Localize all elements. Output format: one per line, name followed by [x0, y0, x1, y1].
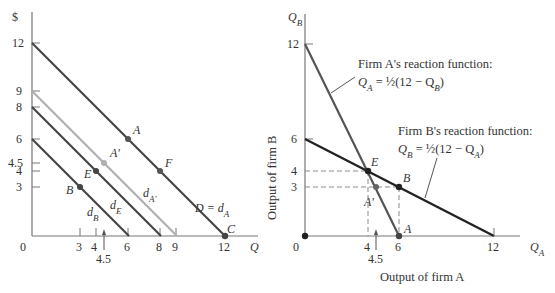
label-B-right: B: [403, 171, 411, 185]
label-E: E: [83, 167, 92, 181]
firm-A-reaction-line: [305, 44, 399, 236]
left-x-tick-8: 8: [156, 240, 162, 254]
point-origin: [302, 233, 308, 239]
label-E-right: E: [370, 155, 379, 169]
label-B: B: [66, 183, 74, 197]
point-A-prime-right: [373, 184, 379, 190]
label-dA-prime: dA': [143, 186, 157, 204]
label-dB: dB: [87, 205, 99, 223]
left-y-tick-6: 6: [16, 132, 22, 146]
right-x-axis-label: Output of firm A: [380, 270, 464, 284]
right-y-tick-4: 4: [291, 164, 297, 178]
point-F: [157, 168, 163, 174]
point-A: [125, 136, 131, 142]
left-x-tick-4-5: 4.5: [96, 252, 111, 266]
right-x-tick-6: 6: [395, 240, 401, 254]
label-A-prime-right: A': [363, 195, 374, 209]
label-A-right: A: [403, 222, 412, 236]
label-A-prime: A': [109, 146, 120, 160]
label-A: A: [132, 123, 141, 137]
firm-A-reaction-title: Firm A's reaction function:: [358, 57, 493, 71]
right-x-axis-symbol: QA: [530, 240, 545, 258]
left-x-tick-9: 9: [172, 240, 178, 254]
point-B: [77, 184, 83, 190]
right-y-tick-12: 12: [287, 37, 299, 51]
left-x-tick-6: 6: [124, 240, 130, 254]
right-origin: 0: [293, 240, 299, 254]
left-y-tick-4: 4: [16, 164, 22, 178]
arrow-head-icon: [374, 229, 378, 235]
left-chart: $ 12 9 8 6 4.5 4 3 0 3 4 4.5 6 8 9 12 Q: [8, 10, 259, 266]
right-x-tick-4-5: 4.5: [368, 252, 383, 266]
left-x-tick-12: 12: [218, 240, 230, 254]
right-x-tick-12-label: 12: [487, 240, 499, 254]
left-y-tick-12: 12: [12, 36, 24, 50]
firm-B-pointer: [425, 158, 437, 198]
firm-A-reaction-equation: QA = ½(12 − QB): [358, 75, 444, 93]
left-x-axis-label: Q: [250, 240, 259, 254]
arrow-head-icon: [102, 229, 106, 235]
left-x-tick-3: 3: [76, 240, 82, 254]
right-y-tick-3: 3: [291, 180, 297, 194]
right-y-axis-symbol: QB: [288, 10, 303, 28]
label-D-dA: D = dA: [194, 201, 230, 219]
left-y-tick-9: 9: [16, 84, 22, 98]
left-y-tick-8: 8: [16, 100, 22, 114]
left-y-tick-3: 3: [16, 180, 22, 194]
point-E: [93, 168, 99, 174]
firm-A-pointer: [331, 77, 355, 93]
right-y-tick-6: 6: [291, 132, 297, 146]
right-chart: QB 12 6 4 3 Output of firm B E B: [265, 10, 545, 284]
point-B-right: [396, 184, 402, 190]
diagram-canvas: $ 12 9 8 6 4.5 4 3 0 3 4 4.5 6 8 9 12 Q: [0, 0, 555, 293]
label-dE: dE: [110, 198, 122, 216]
point-A-right: [396, 233, 402, 239]
label-F: F: [164, 156, 173, 170]
right-y-axis-label: Output of firm B: [265, 136, 279, 220]
firm-B-reaction-title: Firm B's reaction function:: [398, 124, 533, 138]
point-A-prime: [101, 160, 107, 166]
left-origin: 0: [20, 240, 26, 254]
label-C: C: [227, 222, 236, 236]
left-y-label-dollar: $: [12, 10, 18, 24]
firm-B-reaction-equation: QB = ½(12 − QA): [398, 142, 484, 160]
